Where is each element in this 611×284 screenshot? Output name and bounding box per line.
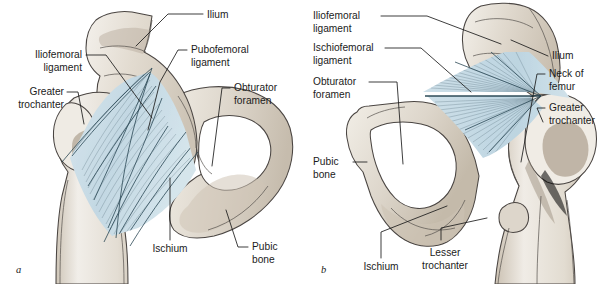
label-neck-of-femur-b-line2: femur [549,81,576,92]
label-obturator-foramen-a-line2: foramen [234,95,271,106]
panel-a-anterior-view: Ilium Iliofemoral ligament Greater troch… [0,0,305,284]
label-greater-trochanter-a-line1: Greater [29,86,64,97]
label-iliofemoral-ligament-a-line2: ligament [43,62,82,73]
label-greater-trochanter-a-line2: trochanter [18,99,64,110]
label-ischiofemoral-ligament-b-line1: Ischiofemoral [313,42,374,53]
label-pubic-bone-a-line1: Pubic [252,241,277,252]
panel-b-letter: b [321,264,326,275]
label-ischium-b: Ischium [363,261,398,272]
label-iliofemoral-ligament-b-line2: ligament [313,23,352,34]
label-pubic-bone-a-line2: bone [252,254,275,265]
label-pubofemoral-ligament-a-line2: ligament [191,57,230,68]
label-pubofemoral-ligament-a-line1: Pubofemoral [191,44,249,55]
label-greater-trochanter-b-line2: trochanter [549,115,595,126]
label-iliofemoral-ligament-a-line1: Iliofemoral [35,49,82,60]
label-ilium-b: Ilium [552,50,574,61]
label-iliofemoral-ligament-b-line1: Iliofemoral [313,10,360,21]
panel-a-letter: a [16,264,21,275]
label-obturator-foramen-b-line1: Obturator [313,76,357,87]
panel-b-posterior-view: Iliofemoral ligament Ischiofemoral ligam… [305,0,611,284]
label-obturator-foramen-a-line1: Obturator [234,82,278,93]
panel-b-illustration: Iliofemoral ligament Ischiofemoral ligam… [305,0,611,284]
hip-ligaments-figure: Ilium Iliofemoral ligament Greater troch… [0,0,611,284]
label-neck-of-femur-b-line1: Neck of [549,68,584,79]
label-lesser-trochanter-b-line1: Lesser [430,247,461,258]
label-greater-trochanter-b-line1: Greater [549,102,584,113]
label-lesser-trochanter-b-line2: trochanter [422,260,468,271]
label-pubic-bone-b-line2: bone [313,169,336,180]
label-ischium-a: Ischium [152,243,187,254]
lesser-trochanter-shape-b [499,203,529,233]
label-ilium-a: Ilium [207,9,229,20]
label-ischiofemoral-ligament-b-line2: ligament [313,55,352,66]
label-obturator-foramen-b-line2: foramen [313,89,350,100]
label-pubic-bone-b-line1: Pubic [313,156,338,167]
panel-a-illustration: Ilium Iliofemoral ligament Greater troch… [0,0,305,284]
